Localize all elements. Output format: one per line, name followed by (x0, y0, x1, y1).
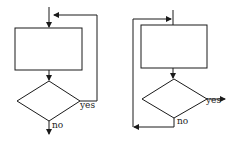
process-box (141, 25, 207, 68)
no-label: no (52, 120, 63, 130)
right-flowchart (133, 10, 225, 127)
decision-diamond (17, 81, 80, 121)
process-box (15, 28, 82, 70)
no-loop-bottom-arrow (134, 118, 174, 127)
no-label: no (177, 116, 188, 126)
flowchart-canvas: yes no yes no (0, 0, 235, 143)
yes-label: yes (79, 100, 95, 110)
yes-label: yes (205, 95, 221, 105)
decision-diamond (142, 79, 207, 118)
left-flowchart (15, 7, 97, 134)
no-loop-return-arrow (133, 19, 171, 127)
